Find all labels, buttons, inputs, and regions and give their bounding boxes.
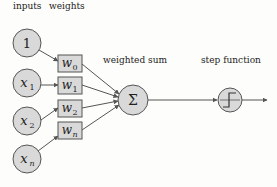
- svg-text:w: w: [62, 78, 73, 92]
- svg-text:w: w: [62, 123, 73, 137]
- svg-text:1: 1: [23, 36, 31, 51]
- step-function-node: [218, 88, 242, 112]
- svg-text:w: w: [62, 56, 73, 70]
- svg-text:2: 2: [29, 121, 34, 130]
- perceptron-diagram: 1 x 1 x 2 x n w 0 w 1 w 2 w n Σ: [0, 0, 277, 187]
- svg-text:1: 1: [29, 83, 34, 92]
- svg-text:n: n: [72, 130, 77, 139]
- weight-box-w0: w 0: [58, 55, 82, 72]
- input-node-bias: 1: [13, 29, 41, 57]
- edge-weight-0: [82, 64, 119, 94]
- edge-weight-n: [82, 105, 119, 130]
- svg-text:n: n: [29, 159, 34, 168]
- input-node-x2: x 2: [13, 107, 41, 135]
- weight-box-w1: w 1: [58, 77, 82, 94]
- weight-box-wn: w n: [58, 122, 82, 139]
- input-node-xn: x n: [13, 145, 41, 173]
- svg-text:x: x: [20, 75, 28, 90]
- edge-weight-1: [82, 85, 118, 97]
- edge-input-2: [41, 108, 58, 120]
- weight-box-w2: w 2: [58, 100, 82, 117]
- svg-text:x: x: [20, 151, 28, 166]
- sum-node: Σ: [118, 85, 148, 115]
- edge-input-0: [39, 50, 58, 61]
- edge-input-n: [38, 136, 58, 151]
- svg-text:2: 2: [72, 108, 77, 117]
- edge-weight-2: [82, 101, 118, 108]
- svg-text:0: 0: [72, 63, 77, 72]
- input-node-x1: x 1: [13, 69, 41, 97]
- svg-text:1: 1: [72, 85, 77, 94]
- sigma-icon: Σ: [128, 92, 138, 108]
- svg-text:x: x: [20, 113, 28, 128]
- svg-text:w: w: [62, 101, 73, 115]
